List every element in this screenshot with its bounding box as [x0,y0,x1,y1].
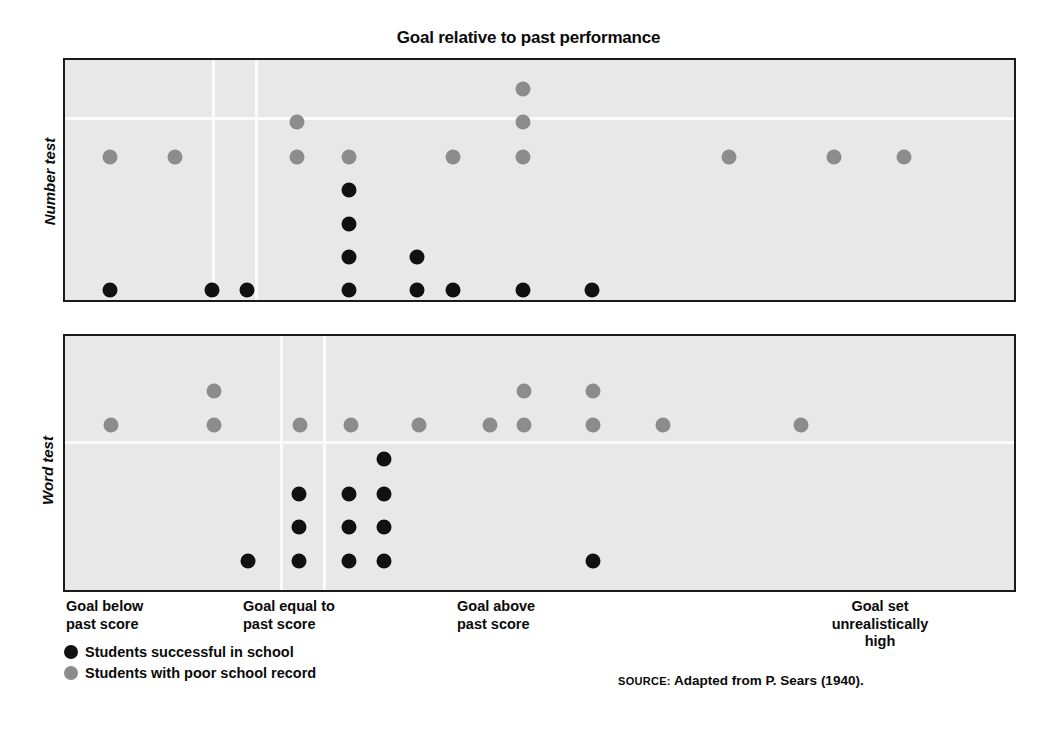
vertical-gridline [323,336,326,590]
x-axis-category-goal-below: Goal below past score [66,598,143,633]
data-point-success [342,250,357,265]
data-point-poor [517,418,532,433]
legend-dot-success-icon [64,645,78,659]
data-point-success [292,520,307,535]
source-text: Adapted from P. Sears (1940). [674,673,864,688]
data-point-success [342,283,357,298]
vertical-gridline [280,336,283,590]
panel-number-test-plot-area [65,60,1014,300]
data-point-success [516,283,531,298]
legend: Students successful in school Students w… [64,641,316,683]
data-point-success [377,452,392,467]
data-point-poor [656,418,671,433]
data-point-success [377,554,392,569]
panel-number-test [63,58,1016,302]
data-point-poor [207,384,222,399]
legend-label-poor: Students with poor school record [85,665,316,681]
data-point-poor [722,150,737,165]
data-point-poor [342,150,357,165]
y-axis-label-number-test: Number test [41,122,58,242]
y-axis-label-word-test: Word test [39,411,56,531]
chart-title: Goal relative to past performance [0,28,1057,48]
vertical-gridline [212,60,215,300]
figure-container: Goal relative to past performance Number… [0,0,1057,729]
data-point-poor [827,150,842,165]
data-point-success [342,217,357,232]
data-point-poor [517,384,532,399]
vertical-gridline [255,60,258,300]
legend-item-success: Students successful in school [64,641,316,662]
data-point-success [410,283,425,298]
data-point-poor [897,150,912,165]
data-point-poor [103,150,118,165]
data-point-poor [412,418,427,433]
data-point-success [103,283,118,298]
panel-word-test-plot-area [65,336,1014,590]
data-point-success [342,487,357,502]
data-point-poor [168,150,183,165]
data-point-poor [586,418,601,433]
x-axis-category-goal-unrealistic: Goal set unrealistically high [800,598,960,651]
x-axis-category-goal-above: Goal above past score [457,598,535,633]
source-note: SOURCE: Adapted from P. Sears (1940). [618,673,864,688]
data-point-poor [794,418,809,433]
x-axis-category-goal-equal: Goal equal to past score [243,598,335,633]
data-point-success [205,283,220,298]
data-point-poor [293,418,308,433]
data-point-success [377,487,392,502]
data-point-success [377,520,392,535]
data-point-success [586,554,601,569]
data-point-success [410,250,425,265]
data-point-poor [516,115,531,130]
data-point-poor [586,384,601,399]
panel-word-test [63,334,1016,592]
data-point-poor [104,418,119,433]
data-point-success [240,283,255,298]
data-point-success [446,283,461,298]
data-point-poor [344,418,359,433]
legend-dot-poor-icon [64,666,78,680]
data-point-poor [290,115,305,130]
data-point-success [585,283,600,298]
horizontal-gridline [65,117,1014,120]
data-point-success [292,487,307,502]
data-point-poor [446,150,461,165]
source-kicker: SOURCE: [618,675,671,687]
data-point-success [241,554,256,569]
data-point-poor [516,150,531,165]
data-point-poor [483,418,498,433]
data-point-success [342,554,357,569]
data-point-success [292,554,307,569]
data-point-poor [290,150,305,165]
legend-label-success: Students successful in school [85,644,294,660]
data-point-success [342,520,357,535]
legend-item-poor: Students with poor school record [64,662,316,683]
horizontal-gridline [65,441,1014,444]
data-point-poor [516,82,531,97]
data-point-poor [207,418,222,433]
data-point-success [342,183,357,198]
